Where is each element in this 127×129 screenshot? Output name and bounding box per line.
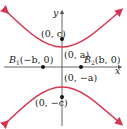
focus-bottom-label: (0, −c) <box>35 97 68 108</box>
b2-label: B2(b, 0) <box>83 54 120 66</box>
b1-point <box>41 65 45 69</box>
x-axis-label: x <box>115 65 121 76</box>
b2-point <box>79 65 83 69</box>
b1-label: B1(−b, 0) <box>8 54 53 66</box>
vertex-bottom-label: (0, −a) <box>64 72 97 83</box>
y-axis-label: y <box>52 7 59 18</box>
focus-top-label: (0, c) <box>41 28 66 39</box>
hyperbola-diagram: y x (0, c) (0, a) B1(−b, 0) B2(b, 0) (0,… <box>0 0 127 129</box>
